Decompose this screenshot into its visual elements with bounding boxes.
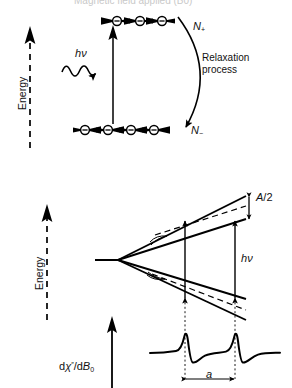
drop-lines (185, 298, 235, 379)
spectrum-y-axis (107, 316, 117, 388)
lower-hyperfine-line-a (118, 260, 246, 299)
panel-hyperfine-splitting (0, 0, 292, 388)
upper-unsplit-dashed-line (155, 206, 246, 235)
upper-hyperfine-line-a (118, 196, 246, 260)
zeeman-fan (95, 196, 246, 320)
epr-derivative-spectrum (150, 334, 280, 363)
lower-unsplit-dashed-line (152, 274, 246, 310)
figure-canvas-2 (0, 0, 292, 388)
hv-transition-arrows (185, 221, 235, 298)
splitting-label-a: a (206, 368, 212, 381)
lower-hyperfine-line-b (118, 260, 246, 320)
spectrum-y-axis-label: dχ″/dB0 (59, 360, 94, 374)
hyperfine-A-half-label: A/2 (256, 191, 273, 204)
derivative-lineshape-path (150, 334, 280, 363)
hv-transition-label: hν (241, 252, 253, 265)
energy-axis-label-bottom: Energy (33, 257, 45, 290)
upper-hyperfine-line-b (118, 219, 246, 260)
